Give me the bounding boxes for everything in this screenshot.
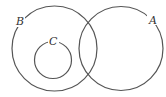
label-a: A: [148, 14, 157, 27]
venn-diagram: B A C: [0, 0, 166, 97]
label-b: B: [15, 15, 24, 28]
label-c: C: [49, 35, 58, 48]
